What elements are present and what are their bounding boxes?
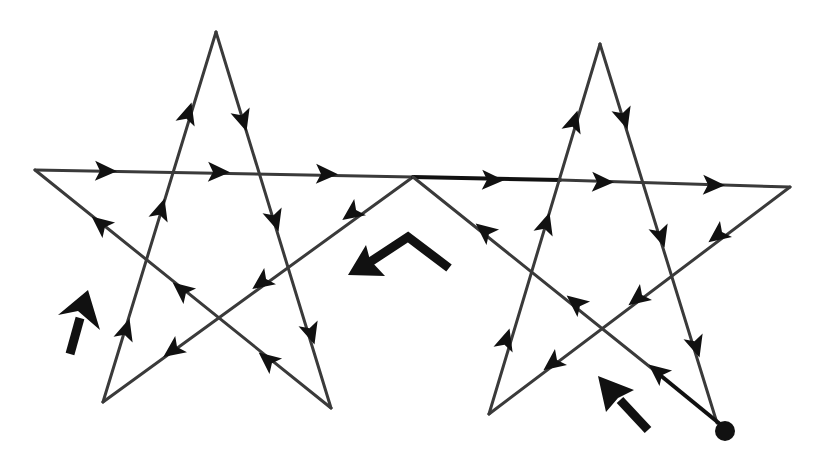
- arrow-down-left-icon: [246, 268, 276, 297]
- arrow-down-icon: [612, 106, 638, 133]
- arrow-up-icon: [149, 196, 175, 223]
- right-star-edge-left-to-bottomright: [413, 177, 660, 375]
- center-chevron-arrow: [348, 237, 449, 276]
- right-star: [413, 44, 790, 424]
- right-up-left-arrow: [598, 376, 648, 430]
- double-star-path-diagram: [0, 0, 818, 468]
- left-star-edge-bottomleft-to-top: [103, 32, 216, 402]
- arrow-up-icon: [114, 316, 140, 343]
- right-star-edge-bottomleft-to-top: [489, 44, 600, 414]
- left-up-arrow: [58, 290, 100, 354]
- arrow-down-icon: [231, 108, 257, 135]
- left-star-edge-right-to-bottomleft: [103, 177, 413, 402]
- arrow-up-icon: [534, 210, 560, 237]
- right-star-edge-top: [560, 180, 790, 187]
- left-star: [35, 32, 413, 408]
- arrow-down-left-icon: [336, 199, 366, 228]
- start-point-dot: [715, 421, 735, 441]
- arrow-up-left-icon: [560, 288, 590, 317]
- arrow-down-left-icon: [702, 221, 732, 250]
